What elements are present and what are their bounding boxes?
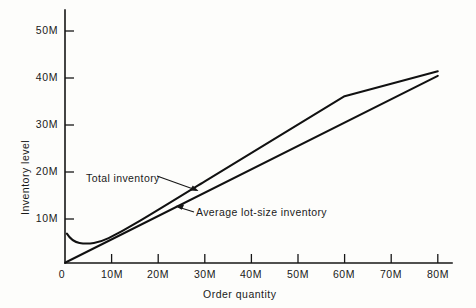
x-tick-label-70m: 70M — [369, 268, 413, 280]
x-tick-label-10m: 10M — [90, 268, 134, 280]
total-inventory-leader — [157, 176, 199, 191]
x-axis-title: Order quantity — [203, 288, 277, 300]
y-axis-ticks — [65, 31, 74, 219]
y-tick-label-30m: 30M — [18, 118, 58, 130]
x-axis-ticks — [112, 254, 438, 263]
annotation-average-lot-size: Average lot-size inventory — [196, 206, 327, 218]
y-axis-title: Inventory level — [19, 140, 31, 215]
x-tick-label-20m: 20M — [136, 268, 180, 280]
x-tick-label-80m: 80M — [416, 268, 460, 280]
x-tick-label-50m: 50M — [276, 268, 320, 280]
x-tick-label-60m: 60M — [322, 268, 366, 280]
x-tick-label-40m: 40M — [229, 268, 273, 280]
average-lot-size-leader — [175, 205, 194, 212]
chart-canvas — [0, 0, 476, 308]
y-tick-label-40m: 40M — [18, 71, 58, 83]
x-tick-label-0: 0 — [48, 268, 76, 280]
series-average-lot-size — [66, 76, 438, 263]
annotation-total-inventory: Total inventory — [86, 172, 160, 184]
x-tick-label-30m: 30M — [183, 268, 227, 280]
y-tick-label-50m: 50M — [18, 24, 58, 36]
chart-figure: 50M 40M 30M 20M 10M 0 10M 20M 30M 40M 50… — [0, 0, 476, 308]
